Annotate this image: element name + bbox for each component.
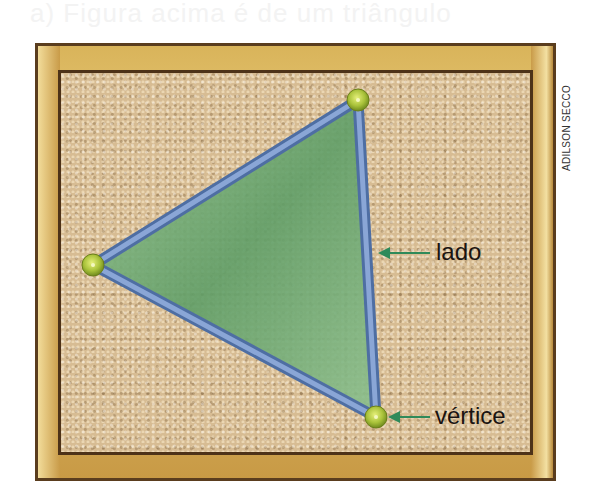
- pin-icon: [365, 406, 387, 428]
- image-credit: ADILSON SECCO: [561, 85, 572, 171]
- label-vertex: vértice: [435, 402, 506, 430]
- arrow-left-icon: [388, 411, 430, 423]
- pin-icon: [347, 89, 369, 111]
- triangle-diagram: [0, 0, 598, 501]
- arrow-left-icon: [378, 247, 430, 259]
- pin-icon: [82, 254, 104, 276]
- label-side: lado: [436, 238, 481, 266]
- triangle-fill: [93, 100, 376, 417]
